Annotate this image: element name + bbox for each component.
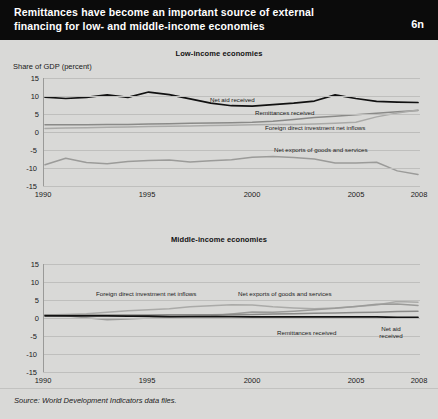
series-label-low-net-exports: Net exports of goods and services [274,146,368,153]
ytick-low-10: 10 [13,92,39,101]
xtick-low-1995: 1995 [127,190,167,199]
page-title: Remittances have become an important sou… [14,6,354,33]
ytick-low-5: 5 [13,110,39,119]
xtick-mid-2008: 2008 [399,376,438,385]
panel-title-low-income: Low-income economies [0,49,438,58]
ytick-mid-m10: -10 [11,350,37,359]
panel-low-income: Low-income economies Share of GDP (perce… [0,40,438,205]
xtick-mid-2000: 2000 [232,376,272,385]
ytick-mid-m5: -5 [11,332,37,341]
line-net-exports-of-goods-and-services [45,156,418,174]
xtick-low-2005: 2005 [336,190,376,199]
xtick-low-1990: 1990 [23,190,63,199]
xtick-low-2000: 2000 [232,190,272,199]
y-axis-line-middle-income [43,264,44,372]
series-label-mid-remittances: Remittances received [277,329,337,336]
plot-area-low-income [43,78,420,186]
gridline-minus-10 [43,168,420,169]
gridline-minus-5 [43,336,420,337]
xtick-mid-1990: 1990 [23,376,63,385]
panel-middle-income: Middle-income economies 15 10 5 0 -5 -10… [0,225,438,385]
gridline-5 [43,300,420,301]
gridline-5 [43,114,420,115]
series-label-low-fdi: Foreign direct investment net inflows [265,124,365,131]
series-label-mid-net-aid: Net aid received [374,325,408,339]
gridline-10 [43,282,420,283]
figure-container: Remittances have become an important sou… [0,0,438,419]
ytick-low-15: 15 [13,74,39,83]
source-note: Source: World Development Indicators dat… [14,396,177,405]
y-axis-line-low-income [43,78,44,186]
ytick-mid-10: 10 [13,278,39,287]
ytick-low-0: 0 [13,128,39,137]
panel-title-middle-income: Middle-income economies [0,235,438,244]
ytick-mid-15: 15 [13,260,39,269]
line-remittances-received [45,110,418,124]
gridline-15 [43,264,420,265]
gridline-minus-15 [43,372,420,373]
xtick-mid-1995: 1995 [127,376,167,385]
footer-divider [0,388,438,389]
gridline-minus-10 [43,354,420,355]
plot-area-middle-income [43,264,420,372]
gridline-15 [43,78,420,79]
gridline-minus-15 [43,186,420,187]
series-label-low-net-aid: Net aid received [210,96,255,103]
series-label-low-remittances: Remittances received [255,109,315,116]
figure-number-badge: 6n [411,18,424,30]
ytick-low-m10: -10 [11,164,37,173]
figure-title-bar: Remittances have become an important sou… [0,0,438,40]
xtick-mid-2005: 2005 [336,376,376,385]
series-label-mid-fdi: Foreign direct investment net inflows [96,290,196,297]
series-label-mid-net-exports: Net exports of goods and services [238,290,332,297]
ytick-low-m5: -5 [11,146,37,155]
xtick-low-2008: 2008 [399,190,438,199]
gridline-0 [43,318,420,319]
y-axis-label-low-income: Share of GDP (percent) [13,62,92,71]
ytick-mid-5: 5 [13,296,39,305]
gridline-0 [43,132,420,133]
ytick-mid-0: 0 [13,314,39,323]
